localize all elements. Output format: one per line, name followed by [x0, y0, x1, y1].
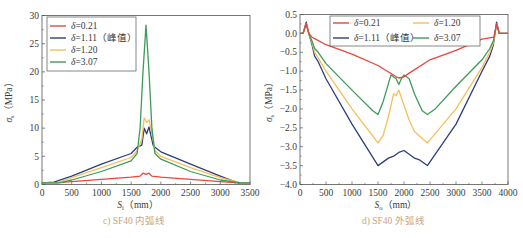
x-tick-label: 2000	[395, 188, 414, 198]
x-tick-label: 3000	[447, 188, 466, 198]
x-tick-label: 500	[65, 188, 80, 198]
x-tick-label: 3000	[211, 188, 230, 198]
y-tick-label: 0.5	[285, 10, 297, 20]
x-tick-label: 3500	[473, 188, 492, 198]
x-tick-label: 1500	[122, 188, 141, 198]
y-tick-label: −2.5	[280, 123, 297, 133]
right-chart-outer-arc: 050010001500200025003000350040000.50.0−0…	[263, 10, 518, 211]
series-line	[42, 173, 250, 183]
x-tick-label: 1000	[343, 188, 362, 198]
y-tick-label: −1.0	[280, 66, 297, 76]
y-tick-label: −4.0	[280, 180, 297, 190]
x-tick-label: 4000	[499, 188, 518, 198]
legend-label: δ=3.07	[434, 33, 461, 43]
x-tick-label: 2000	[151, 188, 170, 198]
left-chart-inner-arc: 0500100015002000250030003500051015202530…	[3, 11, 260, 211]
x-tick-label: 1000	[92, 188, 111, 198]
y-tick-label: 30	[30, 11, 40, 21]
legend-label: δ=0.21	[71, 21, 98, 31]
y-tick-label: 20	[30, 67, 40, 77]
y-tick-label: 15	[30, 95, 40, 105]
y-tick-label: −1.5	[280, 85, 297, 95]
legend-label: δ=1.20	[71, 45, 98, 55]
x-tick-label: 2500	[421, 188, 440, 198]
y-tick-label: −3.5	[280, 161, 297, 171]
y-tick-label: −3.0	[280, 142, 297, 152]
y-tick-label: 25	[30, 39, 40, 49]
legend-label: δ=0.21	[354, 18, 381, 28]
x-tick-label: 2500	[181, 188, 200, 198]
y-tick-label: 0.0	[285, 29, 297, 39]
y-tick-label: −0.5	[280, 47, 297, 57]
y-tick-label: 0	[34, 180, 39, 190]
y-tick-label: 5	[34, 152, 39, 162]
legend-label: δ=1.11（峰值）	[71, 32, 137, 43]
legend-label: δ=1.11（峰值）	[354, 32, 420, 43]
x-tick-label: 500	[319, 188, 334, 198]
y-axis-label: σs（MPa）	[263, 77, 275, 122]
x-tick-label: 3500	[241, 188, 260, 198]
y-tick-label: 10	[30, 123, 40, 133]
x-axis-label: Si（mm）	[117, 199, 158, 211]
x-tick-label: 0	[298, 188, 303, 198]
legend-label: δ=3.07	[71, 57, 98, 67]
legend-label: δ=1.20	[434, 18, 461, 28]
series-line	[42, 118, 250, 183]
x-tick-label: 1500	[369, 188, 388, 198]
left-chart-caption: c) SF40 内弧线	[103, 213, 165, 227]
x-tick-label: 0	[40, 188, 45, 198]
right-chart-caption: d) SF40 外弧线	[362, 213, 425, 227]
x-axis-label: So（mm）	[375, 199, 418, 211]
y-tick-label: −2.0	[280, 104, 297, 114]
figure-canvas: 0500100015002000250030003500051015202530…	[0, 0, 523, 238]
y-axis-label: σs（MPa）	[3, 77, 15, 122]
